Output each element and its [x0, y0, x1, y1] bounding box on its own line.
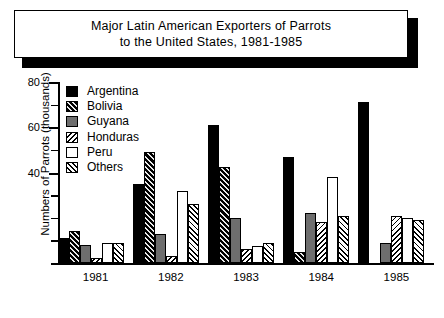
bar-argentina-1981 [58, 238, 69, 263]
legend-item-guyana: Guyana [66, 114, 139, 129]
bar-guyana-1981 [80, 245, 91, 263]
legend-label-others: Others [87, 161, 123, 174]
legend-swatch-guyana-icon [66, 116, 78, 127]
chart-legend: ArgentinaBoliviaGuyanaHondurasPeruOthers [66, 84, 139, 175]
bar-group-1982 [133, 82, 208, 263]
bar-honduras-1982 [166, 256, 177, 263]
bar-guyana-1985 [380, 243, 391, 263]
bar-group-1983 [208, 82, 283, 263]
bar-honduras-1983 [241, 249, 252, 263]
bar-peru-1983 [252, 246, 263, 263]
bar-guyana-1984 [305, 213, 316, 263]
bar-honduras-1985 [391, 216, 402, 264]
bar-bolivia-1981 [69, 231, 80, 263]
bar-argentina-1982 [133, 184, 144, 263]
legend-swatch-argentina-icon [66, 86, 78, 97]
legend-swatch-others-icon [66, 162, 78, 173]
legend-label-argentina: Argentina [87, 85, 138, 98]
chart-title-line-2: to the United States, 1981-1985 [120, 34, 303, 50]
x-tick-label-1985: 1985 [359, 271, 434, 291]
bar-guyana-1983 [230, 218, 241, 263]
y-tick-0 [51, 263, 58, 265]
legend-swatch-peru-icon [66, 147, 78, 158]
legend-item-argentina: Argentina [66, 84, 139, 99]
bar-honduras-1984 [316, 222, 327, 263]
y-axis-title: Numbers of Parrots (thousands) [39, 64, 51, 245]
bar-argentina-1983 [208, 125, 219, 263]
legend-label-honduras: Honduras [87, 131, 139, 144]
y-tick-50 [51, 150, 58, 152]
y-tick-10 [51, 240, 58, 242]
y-tick-70 [51, 105, 58, 107]
bar-bolivia-1984 [294, 252, 305, 263]
bar-peru-1981 [102, 243, 113, 263]
bar-bolivia-1983 [219, 167, 230, 263]
legend-swatch-bolivia-icon [66, 101, 78, 112]
bar-group-1985 [358, 82, 433, 263]
legend-item-honduras: Honduras [66, 130, 139, 145]
legend-label-bolivia: Bolivia [87, 100, 122, 113]
chart-title-line-1: Major Latin American Exporters of Parrot… [91, 18, 331, 34]
x-tick-label-1983: 1983 [208, 271, 283, 291]
bar-others-1982 [188, 204, 199, 263]
legend-item-peru: Peru [66, 145, 139, 160]
x-tick-label-1984: 1984 [284, 271, 359, 291]
legend-item-bolivia: Bolivia [66, 99, 139, 114]
x-tick-label-1982: 1982 [133, 271, 208, 291]
bar-others-1984 [338, 216, 349, 264]
legend-label-peru: Peru [87, 146, 112, 159]
bar-others-1985 [413, 220, 424, 263]
bar-others-1981 [113, 243, 124, 263]
bar-honduras-1981 [91, 258, 102, 263]
legend-label-guyana: Guyana [87, 115, 129, 128]
title-panel: Major Latin American Exporters of Parrot… [14, 10, 408, 58]
bar-guyana-1982 [155, 234, 166, 263]
y-tick-20 [51, 218, 58, 220]
bar-peru-1984 [327, 177, 338, 263]
bar-peru-1982 [177, 191, 188, 263]
bar-bolivia-1982 [144, 152, 155, 263]
bar-argentina-1984 [283, 157, 294, 263]
x-axis-line [58, 263, 434, 265]
bar-others-1983 [263, 243, 274, 263]
legend-swatch-honduras-icon [66, 132, 78, 143]
chart-title-box: Major Latin American Exporters of Parrot… [14, 10, 410, 60]
y-tick-30 [51, 195, 58, 197]
legend-item-others: Others [66, 160, 139, 175]
bar-peru-1985 [402, 218, 413, 263]
bar-group-1984 [283, 82, 358, 263]
x-tick-label-1981: 1981 [58, 271, 133, 291]
x-axis-tick-labels: 19811982198319841985 [58, 271, 434, 291]
bar-argentina-1985 [358, 102, 369, 263]
